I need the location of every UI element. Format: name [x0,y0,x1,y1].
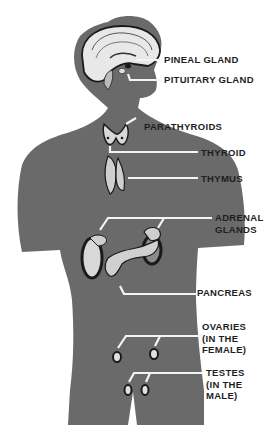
label-pineal-gland: PINEAL GLAND [164,54,239,66]
label-line: FEMALE) [202,344,246,356]
label-thyroid: THYROID [201,147,246,159]
label-line: MALE) [206,390,245,402]
label-adrenal-glands: ADRENAL GLANDS [215,212,264,235]
label-line: (IN THE [206,379,245,391]
label-line: TESTES [206,367,245,379]
ovary-right-icon [150,349,158,359]
testis-right-icon [142,385,149,395]
label-line: (IN THE [202,333,246,345]
label-testes: TESTES (IN THE MALE) [206,367,245,402]
label-pancreas: PANCREAS [197,287,252,299]
label-parathyroids: PARATHYROIDS [144,121,222,133]
label-thymus: THYMUS [201,173,243,185]
label-line: ADRENAL [215,212,264,224]
label-ovaries: OVARIES (IN THE FEMALE) [202,321,246,356]
endocrine-diagram: PINEAL GLAND PITUITARY GLAND PARATHYROID… [0,0,275,436]
testis-left-icon [125,385,132,395]
label-line: OVARIES [202,321,246,333]
label-line: GLANDS [215,224,264,236]
ovary-left-icon [113,352,121,362]
label-pituitary-gland: PITUITARY GLAND [164,74,254,86]
